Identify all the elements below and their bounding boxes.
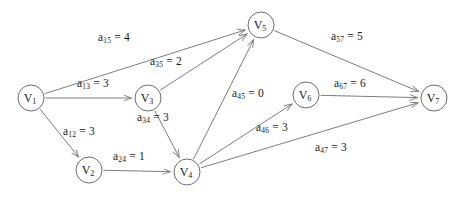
edge-weight-label-e67: a67 = 6 (334, 78, 366, 90)
edge-weight-label-e46: a46 = 3 (256, 122, 288, 134)
edges-layer (40, 30, 419, 172)
node-v3[interactable]: V3 (135, 85, 161, 111)
edge-v6-v7 (320, 95, 417, 97)
edge-v1-v5 (45, 30, 245, 94)
graph-figure: V1V2V3V4V5V6V7 a15 = 4a13 = 3a12 = 3a35 … (0, 0, 468, 197)
edge-v2-v4 (103, 170, 170, 171)
node-v5[interactable]: V5 (248, 12, 274, 38)
edge-weight-label-e15: a15 = 4 (98, 32, 130, 44)
node-v2[interactable]: V2 (76, 157, 102, 183)
node-v7[interactable]: V7 (421, 85, 447, 111)
edge-weight-label-e13: a13 = 3 (77, 78, 109, 90)
edge-weight-label-e12: a12 = 3 (63, 126, 95, 138)
edge-v4-v7 (201, 103, 418, 168)
node-v6[interactable]: V6 (293, 82, 319, 108)
edge-weight-label-e34: a34 = 3 (137, 112, 169, 124)
edge-weight-label-e47: a47 = 3 (315, 142, 347, 154)
edge-v4-v6 (199, 104, 292, 164)
edge-weight-label-e57: a57 = 5 (331, 31, 363, 43)
edge-weight-label-e35: a35 = 2 (150, 56, 182, 68)
edge-weight-label-e24: a24 = 1 (113, 151, 145, 163)
node-v1[interactable]: V1 (18, 85, 44, 111)
node-v4[interactable]: V4 (174, 159, 200, 185)
edge-weight-label-e45: a45 = 0 (232, 88, 264, 100)
